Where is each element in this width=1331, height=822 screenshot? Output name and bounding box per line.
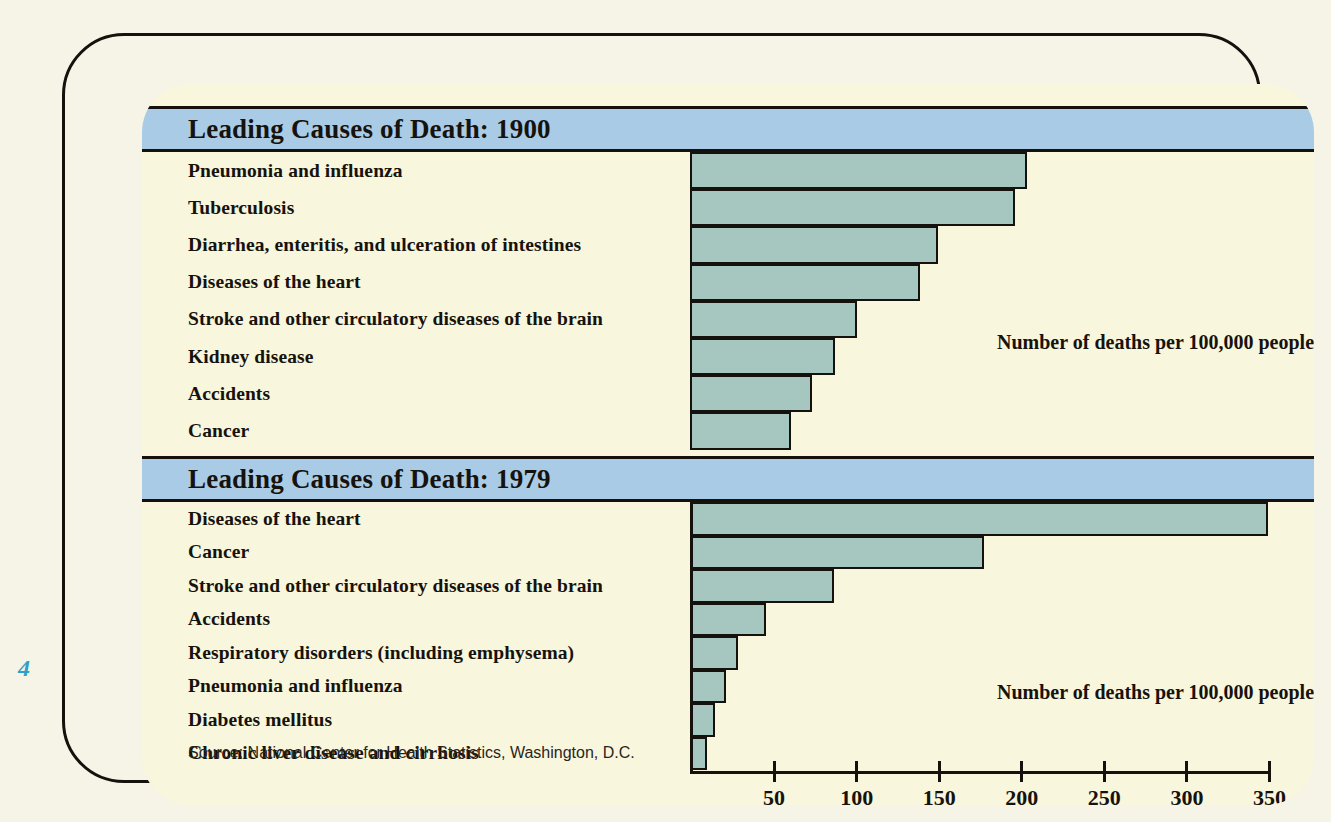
bar-rows-1900: Pneumonia and influenzaTuberculosisDiarr… [142, 152, 1314, 449]
bar [690, 375, 812, 412]
bar [690, 226, 938, 263]
bar-row-label: Pneumonia and influenza [188, 160, 403, 182]
bar-row-label: Cancer [188, 541, 249, 563]
table-row: Diarrhea, enteritis, and ulceration of i… [142, 226, 1314, 263]
panel-title-band-1900: Leading Causes of Death: 1900 [142, 106, 1314, 152]
page-number: 4 [18, 655, 30, 682]
figure-outer-frame: Leading Causes of Death: 1900 Pneumonia … [62, 33, 1261, 783]
bar [690, 737, 707, 771]
bar-row-label: Tuberculosis [188, 197, 294, 219]
axis-tick-label: 200 [1005, 785, 1038, 805]
table-row: Cancer [142, 412, 1314, 449]
bar-row-label: Stroke and other circulatory diseases of… [188, 308, 603, 330]
bar-rows-1979: Diseases of the heartCancerStroke and ot… [142, 502, 1314, 772]
bar-row-label: Cancer [188, 420, 249, 442]
axis-tick-label: 350 [1253, 785, 1286, 805]
bar [690, 301, 857, 338]
chart-card: Leading Causes of Death: 1900 Pneumonia … [142, 84, 1314, 805]
axis-annotation-1979: Number of deaths per 100,000 people [997, 681, 1314, 704]
table-row: Tuberculosis [142, 189, 1314, 226]
table-row: Stroke and other circulatory diseases of… [142, 569, 1314, 603]
table-row: Diabetes mellitus [142, 703, 1314, 737]
bar [690, 264, 920, 301]
bar [690, 636, 738, 670]
axis-tick-label: 300 [1170, 785, 1203, 805]
table-row: Accidents [142, 375, 1314, 412]
bar-row-label: Kidney disease [188, 346, 313, 368]
bar-row-label: Respiratory disorders (including emphyse… [188, 642, 574, 664]
axis-tick-label: 250 [1088, 785, 1121, 805]
bar [690, 152, 1027, 189]
bar-row-label: Diseases of the heart [188, 508, 361, 530]
bar-row-label: Accidents [188, 383, 270, 405]
bar [690, 412, 791, 449]
bar [690, 603, 766, 637]
table-row: Respiratory disorders (including emphyse… [142, 636, 1314, 670]
bar-row-label: Pneumonia and influenza [188, 675, 403, 697]
bar-row-label: Diabetes mellitus [188, 709, 332, 731]
bar-row-label: Diseases of the heart [188, 271, 361, 293]
table-row: Diseases of the heart [142, 264, 1314, 301]
table-row: Cancer [142, 536, 1314, 570]
table-row: Diseases of the heart [142, 502, 1314, 536]
panel-title-band-1979: Leading Causes of Death: 1979 [142, 456, 1314, 502]
bar [690, 536, 984, 570]
bar [690, 338, 835, 375]
bar-row-label: Diarrhea, enteritis, and ulceration of i… [188, 234, 581, 256]
bar [690, 502, 1268, 536]
bar [690, 670, 726, 704]
axis-tick-label: 50 [763, 785, 785, 805]
bar [690, 569, 834, 603]
axis-tick-label: 150 [923, 785, 956, 805]
table-row: Pneumonia and influenza [142, 152, 1314, 189]
bar-row-label: Stroke and other circulatory diseases of… [188, 575, 603, 597]
bar [690, 189, 1015, 226]
axis-annotation-1900: Number of deaths per 100,000 people [997, 331, 1314, 354]
panel-title-1979: Leading Causes of Death: 1979 [188, 464, 551, 495]
table-row: Accidents [142, 603, 1314, 637]
panel-title-1900: Leading Causes of Death: 1900 [188, 114, 551, 145]
bar [690, 703, 715, 737]
bar-row-label: Accidents [188, 608, 270, 630]
source-note: Source: National Center for Health Stati… [188, 744, 635, 762]
axis-tick-label: 100 [840, 785, 873, 805]
